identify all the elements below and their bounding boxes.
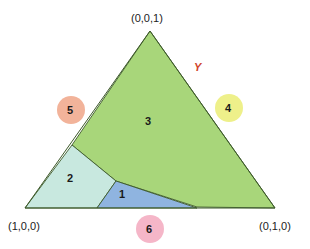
region-3-label: 3	[145, 115, 151, 127]
edge-label-y: Y	[194, 61, 203, 73]
circle-5-label: 5	[67, 104, 73, 116]
circle-6-label: 6	[146, 223, 152, 235]
simplex-diagram: 3 2 1 (0,0,1) (1,0,0) (0,1,0) Y 5 4 6	[0, 0, 310, 249]
region-1-label: 1	[119, 188, 125, 200]
vertex-right-label: (0,1,0)	[259, 220, 291, 232]
region-2-label: 2	[67, 172, 73, 184]
vertex-top-label: (0,0,1)	[131, 12, 163, 24]
vertex-left-label: (1,0,0)	[8, 220, 40, 232]
circle-4-label: 4	[225, 102, 232, 114]
